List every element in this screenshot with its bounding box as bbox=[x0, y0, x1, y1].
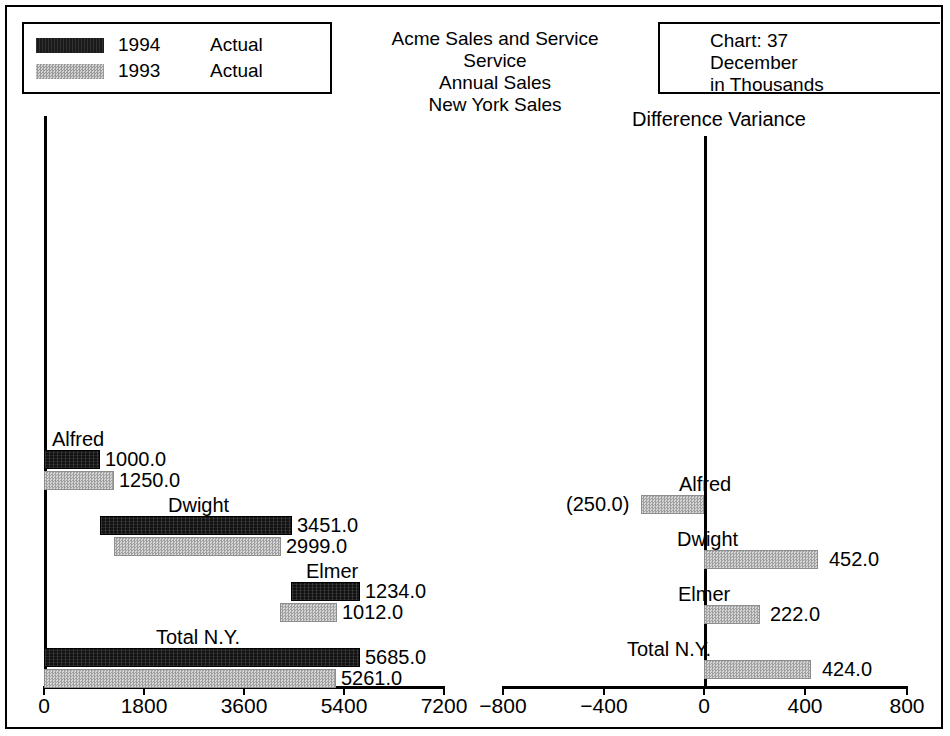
chart-units: in Thousands bbox=[710, 74, 824, 96]
title-line-3: Annual Sales bbox=[340, 72, 650, 94]
legend-box: 1994 Actual 1993 Actual bbox=[22, 22, 332, 94]
title-line-4: New York Sales bbox=[340, 94, 650, 116]
legend-swatch-1993 bbox=[36, 64, 104, 79]
legend-item-1994: 1994 Actual bbox=[36, 34, 263, 56]
chart-number: Chart: 37 bbox=[710, 30, 824, 52]
legend-swatch-1994 bbox=[36, 38, 104, 53]
legend-item-1993: 1993 Actual bbox=[36, 60, 263, 82]
chart-title: Acme Sales and Service Service Annual Sa… bbox=[340, 28, 650, 116]
chart-page: 1994 Actual 1993 Actual Acme Sales and S… bbox=[0, 0, 950, 736]
chart-info-text: Chart: 37 December in Thousands bbox=[710, 30, 824, 96]
title-line-2: Service bbox=[340, 50, 650, 72]
legend-year-1994: 1994 bbox=[118, 34, 210, 56]
legend-kind-1993: Actual bbox=[210, 60, 263, 82]
title-line-1: Acme Sales and Service bbox=[340, 28, 650, 50]
legend-year-1993: 1993 bbox=[118, 60, 210, 82]
chart-period: December bbox=[710, 52, 824, 74]
chart-info-box: Chart: 37 December in Thousands bbox=[658, 22, 940, 94]
legend-kind-1994: Actual bbox=[210, 34, 263, 56]
